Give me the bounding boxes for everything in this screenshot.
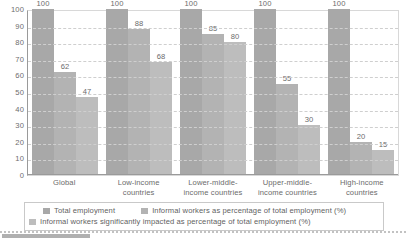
legend-label: Informal workers significantly impacted …	[40, 217, 311, 226]
gridline	[28, 127, 398, 128]
bar[interactable]: 68	[150, 62, 172, 175]
bar-value-label: 100	[333, 0, 346, 8]
bar[interactable]: 80	[224, 42, 246, 175]
gridline	[28, 44, 398, 45]
bar-value-label: 88	[135, 19, 144, 28]
gridline	[28, 61, 398, 62]
bar-group: 1008580	[176, 11, 250, 175]
y-tick-label: 50	[15, 89, 24, 97]
legend-label: Informal workers as percentage of total …	[152, 206, 346, 215]
bar-value-label: 68	[157, 52, 166, 61]
plot-region: 1009080706050403020100 10062471008868100…	[0, 0, 406, 182]
bar-value-label: 100	[259, 0, 272, 8]
gridline	[28, 144, 398, 145]
bar-value-label: 30	[305, 115, 314, 124]
legend-swatch-icon	[141, 208, 148, 214]
gridline	[28, 77, 398, 78]
bar[interactable]: 100	[180, 9, 202, 175]
bar-value-label: 100	[111, 0, 124, 8]
bar[interactable]: 100	[32, 9, 54, 175]
bar[interactable]: 100	[106, 9, 128, 175]
legend-swatch-icon	[29, 219, 36, 225]
bar-chart-figure: 1009080706050403020100 10062471008868100…	[0, 0, 406, 241]
bar[interactable]: 15	[372, 150, 394, 175]
y-tick-label: 90	[15, 23, 24, 31]
bar[interactable]: 47	[76, 97, 98, 175]
bar-group: 1008868	[102, 11, 176, 175]
category-label: Lower-middle-income countries	[176, 178, 250, 197]
bar[interactable]: 100	[254, 9, 276, 175]
footer-accent-bar	[2, 234, 90, 238]
y-tick-label: 80	[15, 39, 24, 47]
y-axis: 1009080706050403020100	[0, 10, 26, 176]
gridline	[28, 94, 398, 95]
legend-row-bottom: Informal workers significantly impacted …	[29, 216, 379, 227]
bar-value-label: 100	[37, 0, 50, 8]
plot-area: 10062471008868100858010055301002015	[27, 10, 399, 176]
category-label: Low-income countries	[101, 178, 175, 197]
bar[interactable]: 20	[350, 142, 372, 175]
category-label: Global	[27, 178, 101, 197]
category-label: High-income countries	[325, 178, 399, 197]
bar[interactable]: 85	[202, 34, 224, 175]
legend-item-informal-workers: Informal workers as percentage of total …	[141, 206, 346, 215]
x-axis-baseline	[28, 174, 398, 175]
bar-group: 1005530	[250, 11, 324, 175]
gridline	[28, 111, 398, 112]
bar[interactable]: 30	[298, 125, 320, 175]
y-tick-label: 0	[20, 172, 24, 180]
bar[interactable]: 88	[128, 29, 150, 175]
bar-value-label: 20	[357, 132, 366, 141]
category-label: Upper-middle-income countries	[250, 178, 324, 197]
y-tick-label: 60	[15, 72, 24, 80]
bar[interactable]: 100	[328, 9, 350, 175]
y-tick-label: 20	[15, 139, 24, 147]
y-tick-label: 10	[15, 155, 24, 163]
y-tick-label: 40	[15, 106, 24, 114]
legend-row-top: Total employment Informal workers as per…	[29, 205, 379, 216]
y-tick-label: 30	[15, 122, 24, 130]
chart-legend: Total employment Informal workers as per…	[24, 202, 384, 231]
gridline	[28, 28, 398, 29]
bar-groups: 10062471008868100858010055301002015	[28, 11, 398, 175]
bar-value-label: 80	[231, 32, 240, 41]
legend-label: Total employment	[54, 206, 115, 215]
legend-item-informal-workers-impacted: Informal workers significantly impacted …	[29, 217, 311, 226]
gridline	[28, 160, 398, 161]
bar-value-label: 62	[61, 62, 70, 71]
bar-group: 1002015	[324, 11, 398, 175]
legend-swatch-icon	[43, 208, 50, 214]
bar-group: 1006247	[28, 11, 102, 175]
y-tick-label: 70	[15, 56, 24, 64]
bar-value-label: 100	[185, 0, 198, 8]
legend-item-total-employment: Total employment	[43, 206, 115, 215]
footer-dotted-rule	[0, 231, 406, 233]
category-label-row: GlobalLow-income countriesLower-middle-i…	[27, 178, 399, 197]
y-tick-label: 100	[11, 6, 24, 14]
